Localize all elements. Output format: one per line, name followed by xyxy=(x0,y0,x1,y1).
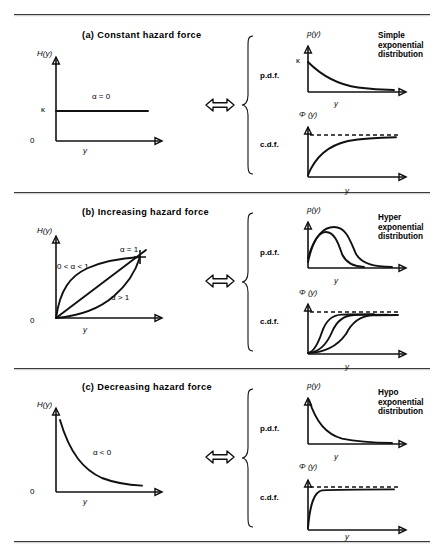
panel-c-pdf-label: p.d.f. xyxy=(260,424,279,433)
divider-a-b xyxy=(14,192,430,193)
panel-a-pdf-ytick: κ xyxy=(296,56,300,65)
panel-b-cdf-label: c.d.f. xyxy=(260,317,279,326)
panel-a-cdf-ylabel: Φ (y) xyxy=(299,110,317,119)
panel-c-title: (c) Decreasing hazard force xyxy=(82,382,212,392)
panel-b-title: (b) Increasing hazard force xyxy=(82,207,209,217)
panel-c-brace xyxy=(240,388,256,528)
panel-b-brace xyxy=(240,212,256,352)
panel-b-distribution-line-0: Hyper xyxy=(378,213,424,223)
panel-c-distribution-line-0: Hypo xyxy=(378,388,424,398)
panel-c-distribution-line-2: distribution xyxy=(378,407,424,417)
panel-a-hazard-ytick: κ xyxy=(41,105,45,114)
panel-c-distribution-line-1: exponential xyxy=(378,398,424,408)
panel-a-equivalence-arrow-icon xyxy=(205,96,235,114)
panel-a-cdf-plot xyxy=(302,119,418,185)
divider-top xyxy=(14,14,430,15)
divider-b-c xyxy=(14,368,430,369)
panel-a-title: (a) Constant hazard force xyxy=(82,30,202,40)
panel-a-cdf-xlabel: y xyxy=(345,186,349,195)
panel-c-pdf-xlabel: y xyxy=(334,452,338,461)
panel-a-distribution-line-0: Simple xyxy=(378,31,424,41)
panel-c-cdf-label: c.d.f. xyxy=(260,493,279,502)
panel-c-distribution-label: Hypo exponential distribution xyxy=(378,388,424,417)
panel-b-distribution-line-2: distribution xyxy=(378,232,424,242)
panel-c-hazard-plot xyxy=(50,396,180,501)
panel-b-hazard-origin: 0 xyxy=(30,316,34,325)
panel-a-pdf-xlabel: y xyxy=(334,99,338,108)
panel-b-distribution-line-1: exponential xyxy=(378,223,424,233)
panel-a-distribution-line-2: distribution xyxy=(378,50,424,60)
panel-a-cdf-label: c.d.f. xyxy=(260,140,279,149)
panel-a-brace xyxy=(240,35,256,175)
panel-a-hazard-origin: 0 xyxy=(30,136,34,145)
divider-bottom xyxy=(14,541,430,542)
panel-a-distribution-line-1: exponential xyxy=(378,41,424,51)
panel-a-pdf-label: p.d.f. xyxy=(260,71,279,80)
panel-a-distribution-label: Simple exponential distribution xyxy=(378,31,424,60)
panel-b-distribution-label: Hyper exponential distribution xyxy=(378,213,424,242)
panel-b-pdf-label: p.d.f. xyxy=(260,248,279,257)
panel-b-cdf-plot xyxy=(302,296,418,362)
panel-b-pdf-ylabel: p(y) xyxy=(307,205,321,214)
panel-c-hazard-origin: 0 xyxy=(30,487,34,496)
panel-a-pdf-ylabel: p(y) xyxy=(307,29,321,38)
figure-hazard-force-distributions: (a) Constant hazard force H(y) κ 0 y α =… xyxy=(0,0,444,557)
panel-b-hazard-plot xyxy=(50,222,180,330)
panel-b-equivalence-arrow-icon xyxy=(205,272,235,290)
panel-b-pdf-xlabel: y xyxy=(334,276,338,285)
panel-c-pdf-ylabel: p(y) xyxy=(307,381,321,390)
panel-b-cdf-xlabel: y xyxy=(345,362,349,371)
panel-c-equivalence-arrow-icon xyxy=(205,448,235,466)
panel-a-hazard-plot xyxy=(50,45,180,150)
panel-c-cdf-plot xyxy=(302,470,418,538)
